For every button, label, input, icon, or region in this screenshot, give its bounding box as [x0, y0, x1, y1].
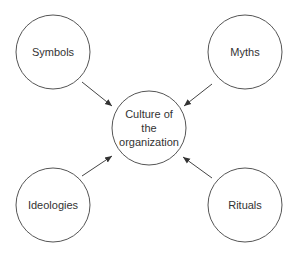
node-myths-label: Myths	[230, 46, 260, 58]
node-myths: Myths	[208, 15, 282, 89]
node-symbols: Symbols	[16, 15, 90, 89]
node-culture: Culture of the organization	[112, 91, 186, 165]
edge-rituals-to-culture	[183, 157, 212, 178]
diagram-canvas: Symbols Myths Culture of the organizatio…	[0, 0, 299, 255]
node-ideologies-label: Ideologies	[28, 199, 79, 211]
node-culture-label-line2: the	[141, 122, 156, 134]
node-rituals: Rituals	[208, 168, 282, 242]
edge-symbols-to-culture	[82, 82, 112, 106]
node-symbols-label: Symbols	[32, 46, 75, 58]
edge-ideologies-to-culture	[82, 156, 112, 176]
node-culture-label-line1: Culture of	[125, 108, 174, 120]
node-culture-label-line3: organization	[119, 136, 179, 148]
edge-myths-to-culture	[184, 84, 212, 106]
node-rituals-label: Rituals	[228, 199, 262, 211]
node-ideologies: Ideologies	[16, 168, 90, 242]
